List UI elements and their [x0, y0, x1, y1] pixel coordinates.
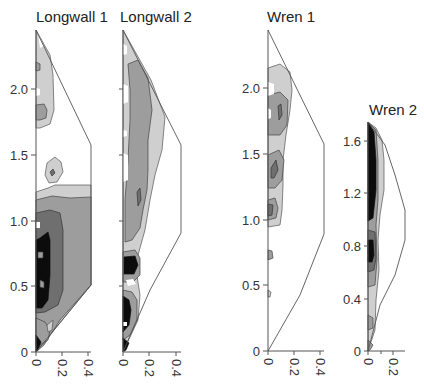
- y-tick-label: 1.5: [10, 148, 28, 163]
- x-tick-label: 0.4: [313, 358, 328, 376]
- y-tick-label: 0.4: [343, 292, 361, 307]
- x-tick-label: 0.4: [81, 359, 96, 377]
- x-tick-label: 0.2: [386, 358, 401, 376]
- y-tick-label: 1.5: [242, 147, 260, 162]
- y-tick-label: 1.2: [343, 186, 361, 201]
- x-tick-label: 0.2: [55, 359, 70, 377]
- y-tick-label: 0.5: [242, 278, 260, 293]
- panel-longwall-2: Longwall 2 0 0.2 0.4: [116, 8, 192, 377]
- panel-title: Longwall 1: [36, 8, 108, 25]
- y-tick-label: 0.8: [343, 239, 361, 254]
- panel-wren-1: Wren 1 0 0.5 1.0 1.5 2.0 0 0.2 0.4: [242, 8, 328, 376]
- y-tick-label: 1.0: [242, 213, 260, 228]
- y-tick-label: 1.0: [10, 214, 28, 229]
- panel-title: Wren 2: [369, 101, 417, 118]
- x-tick-label: 0.2: [287, 358, 302, 376]
- y-tick-label: 2.0: [242, 81, 260, 96]
- x-tick-label: 0: [261, 358, 276, 365]
- y-tick-label: 0: [21, 345, 28, 360]
- contour-figure: Longwall 1 0 0.5: [0, 0, 424, 387]
- x-tick-label: 0: [361, 358, 376, 365]
- y-tick-label: 0: [253, 344, 260, 359]
- panel-wren-2: Wren 2 0 0.4 0.8 1.2 1.6 0 0.2: [343, 101, 417, 376]
- y-tick-label: 2.0: [10, 82, 28, 97]
- y-tick-label: 0.5: [10, 279, 28, 294]
- y-tick-label: 1.6: [343, 134, 361, 149]
- panel-longwall-1: Longwall 1 0 0.5: [10, 8, 108, 377]
- panel-title: Longwall 2: [120, 8, 192, 25]
- y-tick-label: 0: [354, 344, 361, 359]
- x-tick-label: 0.4: [169, 359, 184, 377]
- x-tick-label: 0.2: [142, 359, 157, 377]
- x-tick-label: 0: [29, 359, 44, 366]
- x-tick-label: 0: [116, 359, 131, 366]
- panel-title: Wren 1: [267, 8, 315, 25]
